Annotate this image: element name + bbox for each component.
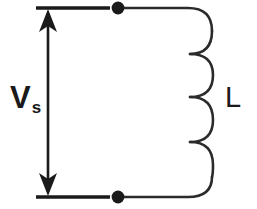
voltage-source-label: Vs	[10, 82, 40, 113]
inductor-turn-2	[190, 54, 213, 97]
bottom-node-dot	[112, 191, 125, 204]
top-wire-to-inductor	[118, 8, 212, 31]
inductor-turn-1	[190, 31, 212, 54]
inductor-turn-4	[190, 142, 213, 177]
top-node-dot	[112, 2, 125, 15]
circuit-diagram: Vs L	[0, 0, 257, 209]
voltage-source-subscript: s	[32, 98, 41, 117]
inductor-label: L	[225, 83, 241, 112]
inductor-turn-3	[190, 97, 213, 142]
bottom-wire-to-inductor	[118, 177, 212, 197]
voltage-source-symbol: V	[10, 80, 31, 115]
